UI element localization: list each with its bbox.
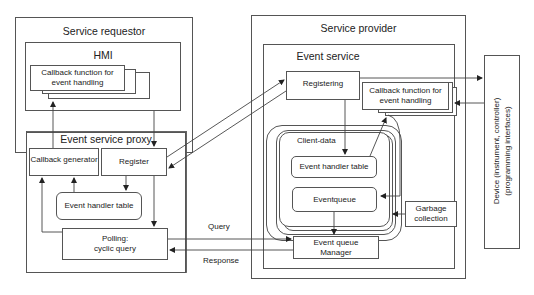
eventqueue-box: Eventqueue (292, 187, 377, 212)
callback-generator-box: Callback generator (29, 148, 99, 176)
register-box: Register (101, 148, 167, 176)
hmi-title: HMI (25, 49, 181, 61)
eq-manager-line2: Manager (320, 248, 352, 258)
garbage-line2: collection (414, 214, 447, 224)
client-data-stack-1 (279, 132, 390, 227)
hmi-callback-line1: Callback function for (41, 68, 113, 78)
polling-line2: cyclic query (94, 244, 136, 254)
hmi-callback-line2: event handling (51, 78, 103, 88)
event-service-title: Event service (263, 50, 393, 62)
provider-callback-function-box: Callback function for event handling (362, 82, 449, 110)
response-label: Response (203, 256, 239, 266)
polling-box: Polling: cyclic query (62, 228, 168, 260)
provider-callback-line1: Callback function for (369, 86, 441, 96)
event-queue-manager-box: Event queue Manager (293, 236, 379, 259)
client-data-title: Client-data (297, 136, 336, 146)
registering-box: Registering (286, 71, 360, 100)
garbage-line1: Garbage (415, 204, 446, 214)
requestor-event-handler-table-box: Event handler table (56, 192, 142, 220)
provider-event-handler-table-box: Event handler table (291, 156, 377, 178)
device-label: Device (instrument, controller) (program… (491, 51, 513, 251)
eq-manager-line1: Event queue (314, 238, 359, 248)
query-label: Query (208, 222, 230, 232)
service-requestor-title: Service requestor (15, 25, 193, 37)
event-service-architecture-diagram: Service requestor HMI Callback function … (0, 0, 534, 295)
service-provider-title: Service provider (251, 22, 466, 34)
garbage-collection-box: Garbage collection (405, 201, 457, 227)
event-service-proxy-title: Event service proxy (26, 133, 186, 145)
device-line1: Device (instrument, controller) (491, 51, 502, 251)
polling-line1: Polling: (102, 234, 128, 244)
provider-callback-line2: event handling (379, 96, 431, 106)
hmi-callback-function-box: Callback function for event handling (30, 65, 125, 91)
device-line2: (programming interfaces) (502, 51, 513, 251)
